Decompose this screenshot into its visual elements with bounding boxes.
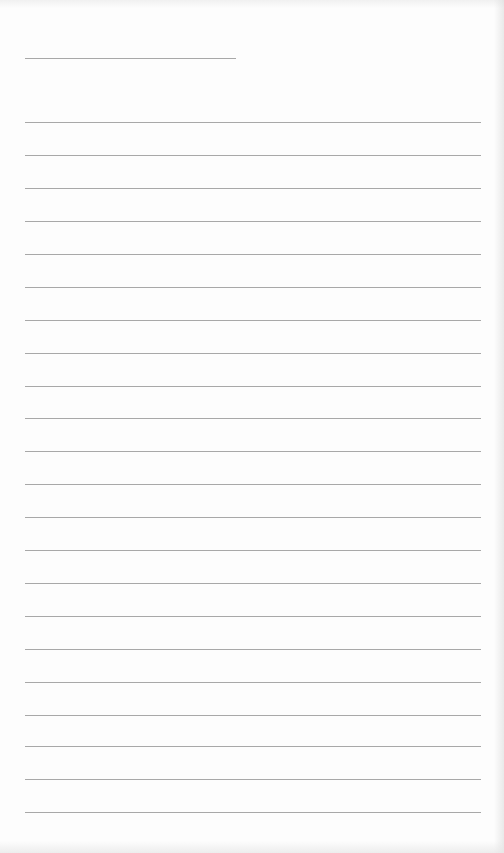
lined-paper-page: [0, 0, 504, 853]
ruled-line: [25, 649, 481, 650]
ruled-line: [25, 812, 481, 813]
ruled-line: [25, 188, 481, 189]
ruled-line: [25, 254, 481, 255]
ruled-line: [25, 616, 481, 617]
page-right-shadow: [494, 0, 504, 853]
ruled-line: [25, 353, 481, 354]
ruled-line: [25, 484, 481, 485]
ruled-line: [25, 682, 481, 683]
ruled-line: [25, 122, 481, 123]
ruled-line: [25, 386, 481, 387]
ruled-line: [25, 779, 481, 780]
ruled-line: [25, 517, 481, 518]
ruled-line: [25, 287, 481, 288]
page-bottom-shadow: [0, 841, 504, 853]
ruled-line: [25, 221, 481, 222]
ruled-line: [25, 418, 481, 419]
ruled-line: [25, 550, 481, 551]
ruled-line: [25, 715, 481, 716]
ruled-line: [25, 583, 481, 584]
ruled-line: [25, 746, 481, 747]
ruled-line: [25, 320, 481, 321]
ruled-line: [25, 155, 481, 156]
page-top-shadow: [0, 0, 504, 8]
ruled-line: [25, 451, 481, 452]
header-name-line: [25, 58, 236, 59]
